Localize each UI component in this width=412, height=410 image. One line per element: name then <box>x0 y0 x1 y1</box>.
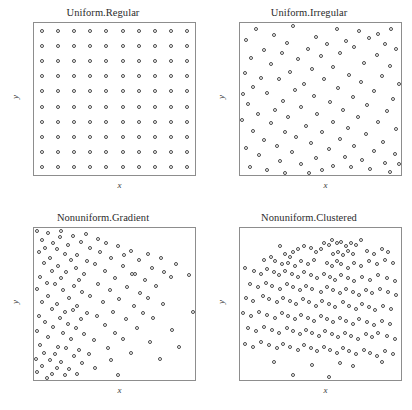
scatter-point <box>37 314 41 318</box>
scatter-point <box>310 331 314 335</box>
scatter-point <box>104 241 108 245</box>
scatter-point <box>286 261 290 265</box>
scatter-point <box>243 71 247 75</box>
scatter-point <box>40 364 44 368</box>
scatter-point <box>121 337 125 341</box>
scatter-point <box>319 54 323 58</box>
scatter-point <box>161 302 165 306</box>
axis-label-x: x <box>0 180 206 190</box>
scatter-point <box>336 86 340 90</box>
scatter-point <box>46 335 50 339</box>
scatter-point <box>244 296 248 300</box>
scatter-point <box>293 264 297 268</box>
scatter-point <box>320 168 324 172</box>
scatter-point <box>104 120 108 124</box>
scatter-point <box>283 130 287 134</box>
scatter-point <box>104 105 108 109</box>
scatter-point <box>122 253 126 257</box>
scatter-point <box>72 284 76 288</box>
scatter-point <box>121 264 125 268</box>
scatter-point <box>67 367 71 371</box>
scatter-point <box>55 247 59 251</box>
scatter-point <box>248 165 252 169</box>
panel-title: Nonuniform.Gradient <box>0 212 206 223</box>
scatter-point <box>299 105 303 109</box>
scatter-point <box>367 36 371 40</box>
scatter-point <box>254 27 258 31</box>
scatter-point <box>288 70 292 74</box>
scatter-point <box>153 165 157 169</box>
scatter-point <box>359 264 363 268</box>
scatter-point <box>362 61 366 65</box>
scatter-point <box>50 307 54 311</box>
scatter-point <box>61 288 65 292</box>
scatter-point <box>96 237 100 241</box>
scatter-point <box>104 74 108 78</box>
scatter-point <box>270 328 274 332</box>
scatter-point <box>339 240 343 244</box>
scatter-point <box>257 153 261 157</box>
scatter-point <box>333 278 337 282</box>
scatter-point <box>265 313 269 317</box>
scatter-point <box>364 332 368 336</box>
scatter-point <box>375 354 379 358</box>
scatter-point <box>325 317 329 321</box>
scatter-point <box>309 246 313 250</box>
scatter-point <box>56 105 60 109</box>
scatter-point <box>35 287 39 291</box>
scatter-point <box>59 229 63 233</box>
scatter-point <box>72 354 76 358</box>
scatter-point <box>137 59 141 63</box>
scatter-point <box>359 80 363 84</box>
scatter-point <box>327 147 331 151</box>
scatter-point <box>137 29 141 33</box>
scatter-point <box>111 310 115 314</box>
scatter-point <box>151 316 155 320</box>
figure-scatter-grid: Uniform.Regular y x Uniform.Irregular y … <box>0 0 412 410</box>
scatter-point <box>299 162 303 166</box>
scatter-point <box>61 331 65 335</box>
scatter-point <box>327 243 331 247</box>
scatter-point <box>341 300 345 304</box>
scatter-point <box>352 279 356 283</box>
axis-label-y: y <box>216 95 226 99</box>
scatter-point <box>293 88 297 92</box>
scatter-point <box>330 332 334 336</box>
scatter-point <box>137 258 141 262</box>
scatter-point <box>288 255 292 259</box>
scatter-point <box>338 51 342 55</box>
scatter-point <box>249 56 253 60</box>
scatter-point <box>319 290 323 294</box>
scatter-point <box>63 252 67 256</box>
scatter-point <box>368 167 372 171</box>
scatter-point <box>341 253 345 257</box>
scatter-point <box>269 255 273 259</box>
scatter-point <box>137 135 141 139</box>
scatter-point <box>169 165 173 169</box>
scatter-point <box>309 141 313 145</box>
scatter-point <box>364 288 368 292</box>
scatter-point <box>281 296 285 300</box>
scatter-point <box>304 124 308 128</box>
scatter-point <box>256 285 260 289</box>
scatter-point <box>40 29 44 33</box>
scatter-point <box>96 282 100 286</box>
scatter-point <box>72 105 76 109</box>
scatter-point <box>40 59 44 63</box>
scatter-point <box>153 150 157 154</box>
scatter-point <box>304 328 308 332</box>
scatter-point <box>56 89 60 93</box>
scatter-point <box>185 59 189 63</box>
scatter-point <box>72 150 76 154</box>
scatter-point <box>38 275 42 279</box>
scatter-point <box>77 348 81 352</box>
scatter-point <box>296 57 300 61</box>
scatter-point <box>265 168 269 172</box>
scatter-point <box>343 331 347 335</box>
scatter-point <box>259 272 263 276</box>
scatter-point <box>347 73 351 77</box>
scatter-point <box>267 297 271 301</box>
scatter-point <box>343 155 347 159</box>
scatter-point <box>356 337 360 341</box>
scatter-point <box>331 252 335 256</box>
